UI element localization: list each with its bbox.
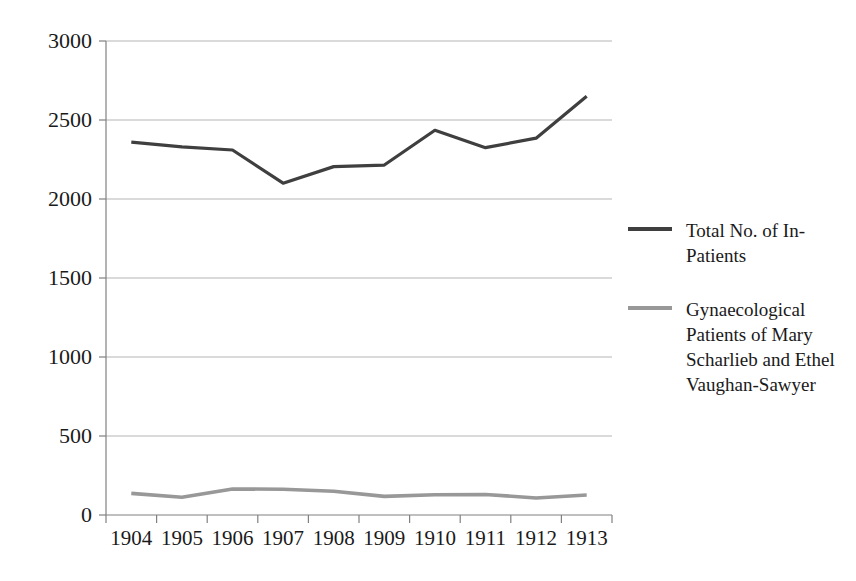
series-line-0 [131, 96, 586, 183]
legend-item-label: Gynaecological Patients of Mary Scharlie… [674, 297, 856, 397]
data-series-group [131, 96, 586, 498]
legend-item-1[interactable]: Gynaecological Patients of Mary Scharlie… [628, 297, 856, 397]
chart-plot-svg [0, 0, 856, 581]
legend-item-0[interactable]: Total No. of In-Patients [628, 218, 856, 268]
x-tick-label-1906: 1906 [207, 528, 258, 549]
legend-color-bar [628, 227, 672, 231]
legend-item-label: Total No. of In-Patients [674, 218, 856, 268]
x-tick-label-1904: 1904 [106, 528, 157, 549]
x-tick-label-1909: 1909 [359, 528, 410, 549]
chart-container: 300025002000150010005000 190419051906190… [0, 0, 856, 581]
y-tick-label-500: 500 [59, 425, 92, 447]
x-tick-label-1913: 1913 [561, 528, 612, 549]
x-tick-label-1910: 1910 [410, 528, 461, 549]
legend-swatch-line-icon [628, 297, 674, 310]
y-tick-label-3000: 3000 [48, 30, 92, 52]
x-tick-label-1911: 1911 [460, 528, 511, 549]
x-tick-label-1908: 1908 [308, 528, 359, 549]
y-tick-label-1500: 1500 [48, 267, 92, 289]
legend-swatch-line-icon [628, 218, 674, 231]
y-tick-label-1000: 1000 [48, 346, 92, 368]
y-tick-label-2000: 2000 [48, 188, 92, 210]
y-tick-label-2500: 2500 [48, 109, 92, 131]
y-tick-label-0: 0 [81, 504, 92, 526]
x-tick-label-1912: 1912 [511, 528, 562, 549]
gridlines-group [106, 41, 612, 436]
legend-color-bar [628, 306, 672, 310]
x-tick-marks-group [106, 515, 612, 523]
y-tick-marks-group [99, 41, 106, 515]
x-tick-label-1905: 1905 [157, 528, 208, 549]
series-line-1 [131, 489, 586, 498]
x-tick-label-1907: 1907 [258, 528, 309, 549]
